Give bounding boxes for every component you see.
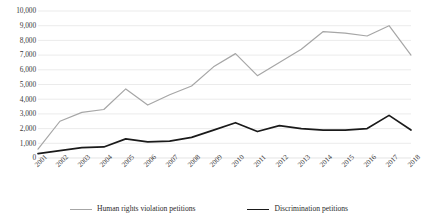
plot-area: 10,0009,0008,0007,0006,0005,0004,0003,00…: [0, 0, 418, 170]
plot-svg: [0, 0, 418, 170]
chart-legend: Human rights violation petitionsDiscrimi…: [0, 198, 418, 220]
series-line: [38, 115, 411, 153]
series-group: [38, 26, 411, 154]
y-axis-tick-label: 6,000: [2, 66, 36, 73]
y-axis-tick-label: 5,000: [2, 81, 36, 88]
legend-label: Human rights violation petitions: [97, 205, 196, 213]
y-axis-tick-label: 7,000: [2, 51, 36, 58]
x-axis-labels: 2001200220032004200520062007200820092010…: [0, 158, 418, 196]
y-axis-tick-label: 8,000: [2, 37, 36, 44]
y-axis-tick-label: 1,000: [2, 140, 36, 147]
y-axis-tick-label: 4,000: [2, 96, 36, 103]
y-axis-labels: 10,0009,0008,0007,0006,0005,0004,0003,00…: [0, 0, 36, 170]
legend-line-icon: [70, 209, 92, 210]
y-axis-tick-label: 9,000: [2, 22, 36, 29]
legend-item[interactable]: Human rights violation petitions: [70, 205, 196, 213]
legend-label: Discrimination petitions: [274, 205, 348, 213]
gridlines: [38, 11, 411, 158]
series-line: [38, 26, 411, 149]
y-axis-tick-label: 2,000: [2, 125, 36, 132]
legend-line-icon: [247, 209, 269, 210]
legend-item[interactable]: Discrimination petitions: [247, 205, 348, 213]
y-axis-tick-label: 10,000: [2, 7, 36, 14]
y-axis-tick-label: 3,000: [2, 110, 36, 117]
